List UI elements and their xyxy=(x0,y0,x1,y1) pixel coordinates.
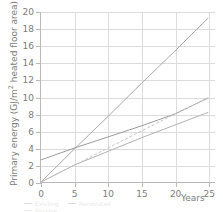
y-axis-title-superscript: 2 xyxy=(7,85,15,89)
legend-item: Renovated xyxy=(68,200,111,207)
x-axis-tick xyxy=(142,182,143,187)
series-line xyxy=(41,112,208,182)
y-axis-title: Primary energy (GJ/m2 heated floor area) xyxy=(7,6,19,186)
y-axis-tick-label: 4 xyxy=(28,144,34,154)
y-axis-tick xyxy=(36,46,41,47)
legend-label: Passive xyxy=(35,207,57,212)
y-axis-tick-label: 0 xyxy=(28,178,34,188)
legend-item: Existing xyxy=(24,200,59,207)
y-axis-tick-label: 10 xyxy=(23,93,34,103)
y-axis-tick xyxy=(36,115,41,116)
y-axis-tick-label: 8 xyxy=(28,110,34,120)
y-axis-tick xyxy=(36,80,41,81)
y-axis-tick xyxy=(36,132,41,133)
x-axis-tick-label: 10 xyxy=(103,189,114,199)
x-axis-tick-label: 25 xyxy=(204,189,215,199)
y-axis-tick-label: 2 xyxy=(28,161,34,171)
legend-item: Passive xyxy=(24,207,57,212)
y-axis-tick-label: 16 xyxy=(23,41,34,51)
y-axis-tick-label: 12 xyxy=(23,75,34,85)
legend-swatch xyxy=(24,210,32,211)
y-axis-tick-label: 20 xyxy=(23,7,34,17)
y-axis-tick xyxy=(36,98,41,99)
y-axis-tick xyxy=(36,63,41,64)
y-axis-tick xyxy=(36,149,41,150)
plot-area: 024681012141618200510152025 xyxy=(40,12,215,183)
legend-swatch xyxy=(24,203,32,204)
x-axis-tick xyxy=(41,182,42,187)
y-axis-tick xyxy=(36,12,41,13)
x-axis-tick xyxy=(108,182,109,187)
x-axis-title: Years xyxy=(181,193,205,203)
x-axis-tick-label: 0 xyxy=(38,189,44,199)
series-lines xyxy=(41,12,215,182)
x-axis-tick-label: 5 xyxy=(72,189,78,199)
y-axis-title-prefix: Primary energy (GJ/m xyxy=(9,89,19,186)
x-axis-tick-label: 15 xyxy=(136,189,147,199)
legend-swatch xyxy=(68,203,76,204)
y-axis-tick xyxy=(36,29,41,30)
legend-label: Existing xyxy=(35,200,59,207)
chart-figure: Primary energy (GJ/m2 heated floor area)… xyxy=(0,0,223,212)
y-axis-tick-label: 14 xyxy=(23,58,34,68)
y-axis-tick-label: 6 xyxy=(28,127,34,137)
y-axis-tick-label: 18 xyxy=(23,24,34,34)
y-axis-tick xyxy=(36,166,41,167)
y-axis-title-suffix: heated floor area) xyxy=(9,1,19,85)
x-axis-tick xyxy=(209,182,210,187)
legend-label: Renovated xyxy=(79,200,111,207)
x-axis-tick xyxy=(75,182,76,187)
x-axis-tick xyxy=(176,182,177,187)
series-line xyxy=(41,98,208,160)
x-axis-tick-label: 20 xyxy=(170,189,181,199)
series-line xyxy=(41,18,208,182)
legend: ExistingRenovatedPassive xyxy=(24,200,144,212)
